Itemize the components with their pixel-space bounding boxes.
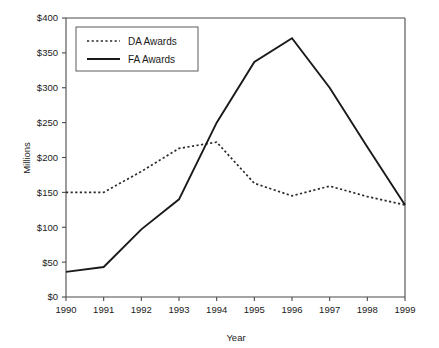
x-axis-title: Year	[226, 332, 245, 343]
y-tick-label: $250	[37, 117, 58, 128]
y-tick-label: $400	[37, 12, 58, 23]
chart-legend: DA Awards FA Awards	[76, 27, 198, 71]
x-tick-label: 1995	[244, 304, 265, 315]
x-tick-label: 1991	[93, 304, 114, 315]
y-axis-ticks: $0$50$100$150$200$250$300$350$400	[37, 12, 66, 302]
data-series-group	[66, 38, 405, 272]
x-tick-label: 1990	[55, 304, 76, 315]
y-tick-label: $300	[37, 82, 58, 93]
x-tick-label: 1998	[357, 304, 378, 315]
x-tick-label: 1997	[319, 304, 340, 315]
y-tick-label: $150	[37, 187, 58, 198]
x-tick-label: 1994	[206, 304, 227, 315]
y-tick-label: $50	[42, 257, 58, 268]
y-tick-label: $0	[47, 291, 58, 302]
x-tick-label: 1996	[281, 304, 302, 315]
line-chart: $0$50$100$150$200$250$300$350$400 199019…	[0, 0, 439, 348]
y-tick-label: $200	[37, 152, 58, 163]
y-axis-title: Millions	[21, 142, 32, 174]
x-tick-label: 1993	[168, 304, 189, 315]
series-line-fa-awards	[66, 38, 405, 272]
legend-label-fa-awards: FA Awards	[128, 54, 175, 65]
y-tick-label: $100	[37, 222, 58, 233]
x-tick-label: 1999	[394, 304, 415, 315]
y-tick-label: $350	[37, 47, 58, 58]
x-axis-ticks: 1990199119921993199419951996199719981999	[55, 297, 415, 315]
series-line-da-awards	[66, 142, 405, 205]
x-tick-label: 1992	[131, 304, 152, 315]
chart-canvas: $0$50$100$150$200$250$300$350$400 199019…	[0, 0, 439, 348]
legend-label-da-awards: DA Awards	[128, 36, 177, 47]
